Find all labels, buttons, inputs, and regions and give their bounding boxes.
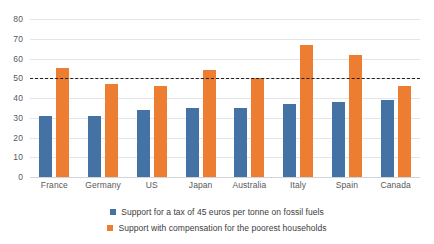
x-axis-tick-label: Australia <box>225 180 274 196</box>
x-axis-tick-label: France <box>30 180 79 196</box>
bar-group <box>79 19 128 177</box>
legend-item[interactable]: Support for a tax of 45 euros per tonne … <box>0 204 434 220</box>
bar-italy-series-1[interactable] <box>300 45 313 177</box>
legend-swatch-icon <box>110 209 116 215</box>
bar-canada-series-0[interactable] <box>381 100 394 177</box>
x-axis-tick-label: Germany <box>79 180 128 196</box>
bar-spain-series-1[interactable] <box>349 55 362 177</box>
bar-italy-series-0[interactable] <box>283 104 296 177</box>
y-axis-tick-label: 0 <box>18 172 23 182</box>
y-axis-tick-label: 30 <box>13 113 23 123</box>
y-axis-tick-label: 40 <box>13 93 23 103</box>
legend-label: Support with compensation for the poores… <box>118 223 326 233</box>
y-axis-tick-label: 80 <box>13 14 23 24</box>
x-axis-tick-label: Canada <box>371 180 420 196</box>
bar-france-series-1[interactable] <box>56 68 69 177</box>
bar-group <box>128 19 177 177</box>
y-axis-tick-label: 60 <box>13 54 23 64</box>
bar-canada-series-1[interactable] <box>398 86 411 177</box>
y-axis-tick-label: 70 <box>13 34 23 44</box>
x-axis: FranceGermanyUSJapanAustraliaItalySpainC… <box>30 180 420 196</box>
bar-group <box>176 19 225 177</box>
bar-chart: 01020304050607080 FranceGermanyUSJapanAu… <box>0 0 434 244</box>
legend-swatch-icon <box>107 225 113 231</box>
y-axis-tick-label: 10 <box>13 152 23 162</box>
bar-japan-series-1[interactable] <box>203 70 216 177</box>
legend-label: Support for a tax of 45 euros per tonne … <box>121 207 324 217</box>
x-axis-tick-label: Japan <box>176 180 225 196</box>
x-axis-tick-label: Italy <box>274 180 323 196</box>
bar-germany-series-1[interactable] <box>105 84 118 177</box>
y-axis-tick-label: 50 <box>13 73 23 83</box>
bar-group <box>323 19 372 177</box>
bar-germany-series-0[interactable] <box>88 116 101 177</box>
fifty-percent-threshold-line <box>30 78 420 79</box>
bar-us-series-0[interactable] <box>137 110 150 177</box>
bar-group <box>371 19 420 177</box>
y-axis: 01020304050607080 <box>0 19 28 177</box>
bar-france-series-0[interactable] <box>39 116 52 177</box>
bar-group <box>274 19 323 177</box>
chart-legend: Support for a tax of 45 euros per tonne … <box>0 204 434 236</box>
plot-area <box>30 19 420 177</box>
axis-baseline <box>30 177 420 178</box>
bar-group <box>225 19 274 177</box>
x-axis-tick-label: US <box>128 180 177 196</box>
bar-groups <box>30 19 420 177</box>
bar-us-series-1[interactable] <box>154 86 167 177</box>
x-axis-tick-label: Spain <box>323 180 372 196</box>
bar-australia-series-1[interactable] <box>251 78 264 177</box>
bar-spain-series-0[interactable] <box>332 102 345 177</box>
y-axis-tick-label: 20 <box>13 133 23 143</box>
bar-group <box>30 19 79 177</box>
bar-japan-series-0[interactable] <box>186 108 199 177</box>
legend-item[interactable]: Support with compensation for the poores… <box>0 220 434 236</box>
bar-australia-series-0[interactable] <box>234 108 247 177</box>
